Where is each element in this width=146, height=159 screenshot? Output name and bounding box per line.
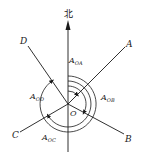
point-label-c: C: [12, 130, 19, 140]
angle-label-oa: AOA: [68, 56, 83, 66]
azimuth-diagram: 北 A B C D O AOA AOB AOC AOD: [0, 0, 146, 159]
point-label-a: A: [125, 39, 133, 49]
arc-azimuth-oa: [68, 91, 77, 95]
north-arrow-icon: [66, 20, 71, 30]
arc-azimuth-oc: [48, 81, 91, 127]
point-label-d: D: [19, 36, 27, 46]
north-label: 北: [64, 9, 73, 19]
point-label-b: B: [124, 134, 132, 144]
ray-oa: [68, 47, 125, 104]
angle-label-oc: AOC: [41, 133, 56, 143]
angle-label-ob: AOB: [100, 93, 115, 103]
center-label-o: O: [70, 109, 77, 118]
